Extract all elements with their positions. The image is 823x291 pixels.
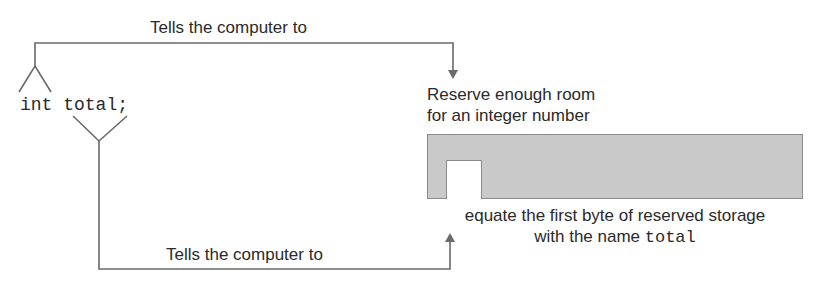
equate-line-2-prefix: with the name — [534, 227, 645, 246]
equate-line-2: with the name total — [425, 226, 805, 248]
int-bracket-line — [35, 43, 453, 72]
equate-description: equate the first byte of reserved storag… — [425, 205, 805, 248]
arrow-down-icon — [448, 70, 458, 79]
bottom-caption: Tells the computer to — [166, 245, 323, 265]
code-statement: int total; — [20, 95, 128, 115]
total-bracket-fork — [73, 116, 127, 141]
equate-line-1: equate the first byte of reserved storag… — [425, 205, 805, 226]
equate-variable-name: total — [645, 228, 696, 247]
top-caption: Tells the computer to — [150, 18, 307, 38]
reserve-line-1: Reserve enough room — [427, 84, 595, 105]
reserve-line-2: for an integer number — [427, 105, 595, 126]
first-byte-cell — [446, 160, 482, 199]
reserve-description: Reserve enough room for an integer numbe… — [427, 84, 595, 126]
variable-identifier: total; — [63, 95, 128, 115]
type-keyword: int — [20, 95, 52, 115]
reserved-storage-block — [427, 134, 803, 199]
int-bracket-fork — [19, 66, 51, 92]
